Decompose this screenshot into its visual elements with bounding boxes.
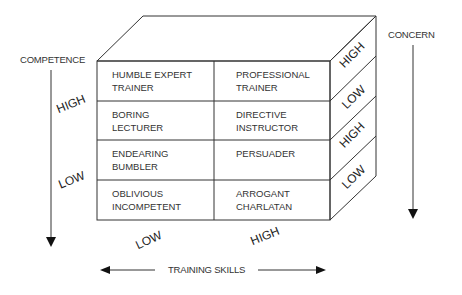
cell-directive-instructor: DIRECTIVE INSTRUCTOR [236,108,298,134]
concern-axis-label: CONCERN [388,29,435,41]
cell-oblivious-incompetent: OBLIVIOUS INCOMPETENT [112,187,181,213]
cell-persuader: PERSUADER [236,147,295,160]
cube-top-face [97,16,376,61]
cell-endearing-bumbler: ENDEARING BUMBLER [112,147,168,173]
training-skills-axis-label: TRAINING SKILLS [168,264,245,276]
cell-professional-trainer: PROFESSIONAL TRAINER [236,68,310,94]
cell-boring-lecturer: BORING LECTURER [112,108,163,134]
cell-humble-expert-trainer: HUMBLE EXPERT TRAINER [112,68,192,94]
cube-diagram [0,0,462,295]
cell-arrogant-charlatan: ARROGANT CHARLATAN [236,187,292,213]
competence-axis-label: COMPETENCE [20,54,85,66]
